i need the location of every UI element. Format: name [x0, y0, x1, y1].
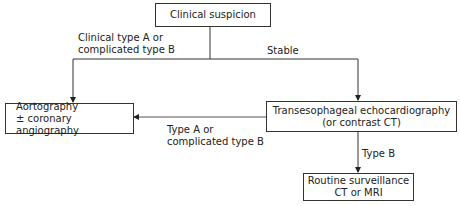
- node-aortography: Aortography ± coronary angiography: [5, 103, 134, 134]
- node-label-line2: CT or MRI: [334, 187, 382, 199]
- node-label-line1: Routine surveillance: [308, 175, 410, 187]
- node-label-line2: ± coronary angiography: [16, 113, 133, 137]
- node-label-line2: (or contrast CT): [322, 117, 401, 129]
- node-clinical-suspicion: Clinical suspicion: [155, 3, 271, 27]
- edge-label-line1: Type B: [362, 148, 395, 159]
- edge-label-type-a: Type A or complicated type B: [167, 124, 264, 148]
- edge-label-stable: Stable: [267, 45, 299, 57]
- node-routine-surveillance: Routine surveillance CT or MRI: [303, 173, 414, 201]
- edge-label-clinical-type-a: Clinical type A or complicated type B: [78, 32, 175, 56]
- edge-label-line1: Clinical type A or: [78, 32, 175, 44]
- edge-label-type-b: Type B: [362, 148, 395, 160]
- edge-label-line2: complicated type B: [78, 44, 175, 56]
- edge-label-line1: Type A or: [167, 124, 264, 136]
- edge-label-line2: complicated type B: [167, 136, 264, 148]
- node-tee: Transesophageal echocardiography (or con…: [266, 101, 457, 132]
- node-label-line1: Transesophageal echocardiography: [273, 105, 450, 117]
- node-label-line1: Aortography: [16, 101, 133, 113]
- edge-label-line1: Stable: [267, 45, 299, 56]
- node-label: Clinical suspicion: [170, 9, 256, 21]
